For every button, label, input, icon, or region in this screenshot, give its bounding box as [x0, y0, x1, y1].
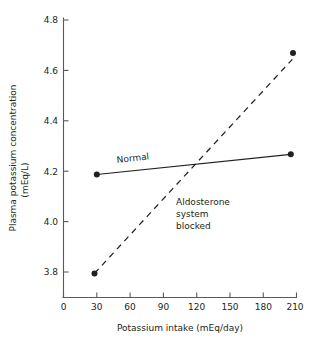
- annotation-normal-label: Normal: [116, 151, 150, 165]
- x-tick-label: 0: [61, 302, 67, 312]
- y-tick-label: 3.8: [44, 267, 59, 277]
- chart-figure: 3.8 4.0 4.2 4.4 4.6 4.8 0 30 60 90 120 1…: [0, 0, 309, 339]
- y-tick-label: 4.4: [44, 116, 59, 126]
- data-point-marker: [94, 172, 100, 178]
- x-tick-label: 180: [255, 302, 272, 312]
- x-tick-label: 30: [91, 302, 103, 312]
- y-axis-title-line2: (mEq/L): [20, 162, 30, 197]
- x-tick-label: 60: [124, 302, 136, 312]
- x-axis-ticks: [64, 293, 297, 298]
- series-line-aldosterone-blocked: [95, 59, 293, 273]
- x-axis-tick-labels: 0 30 60 90 120 150 180 210: [61, 302, 304, 312]
- y-tick-label: 4.2: [44, 167, 58, 177]
- x-tick-label: 210: [286, 302, 303, 312]
- x-tick-label: 150: [221, 302, 238, 312]
- line-chart: 3.8 4.0 4.2 4.4 4.6 4.8 0 30 60 90 120 1…: [0, 0, 309, 339]
- y-axis-ticks: [64, 20, 69, 272]
- data-point-marker: [92, 270, 98, 276]
- x-axis-title: Potassium intake (mEq/day): [117, 323, 243, 333]
- y-axis-title-line1: Plasma potassium concentration: [8, 84, 18, 231]
- y-tick-label: 4.8: [44, 15, 59, 25]
- annotation-blocked-line3: blocked: [176, 221, 211, 231]
- y-tick-label: 4.0: [44, 217, 59, 227]
- y-tick-label: 4.6: [44, 66, 59, 76]
- annotation-blocked-label: Aldosterone system blocked: [176, 197, 230, 231]
- y-axis-tick-labels: 3.8 4.0 4.2 4.4 4.6 4.8: [44, 15, 59, 277]
- annotation-blocked-line1: Aldosterone: [176, 197, 230, 207]
- x-tick-label: 90: [158, 302, 170, 312]
- annotation-blocked-line2: system: [176, 209, 209, 219]
- data-point-marker: [290, 50, 296, 56]
- data-point-marker: [288, 151, 294, 157]
- x-tick-label: 120: [188, 302, 205, 312]
